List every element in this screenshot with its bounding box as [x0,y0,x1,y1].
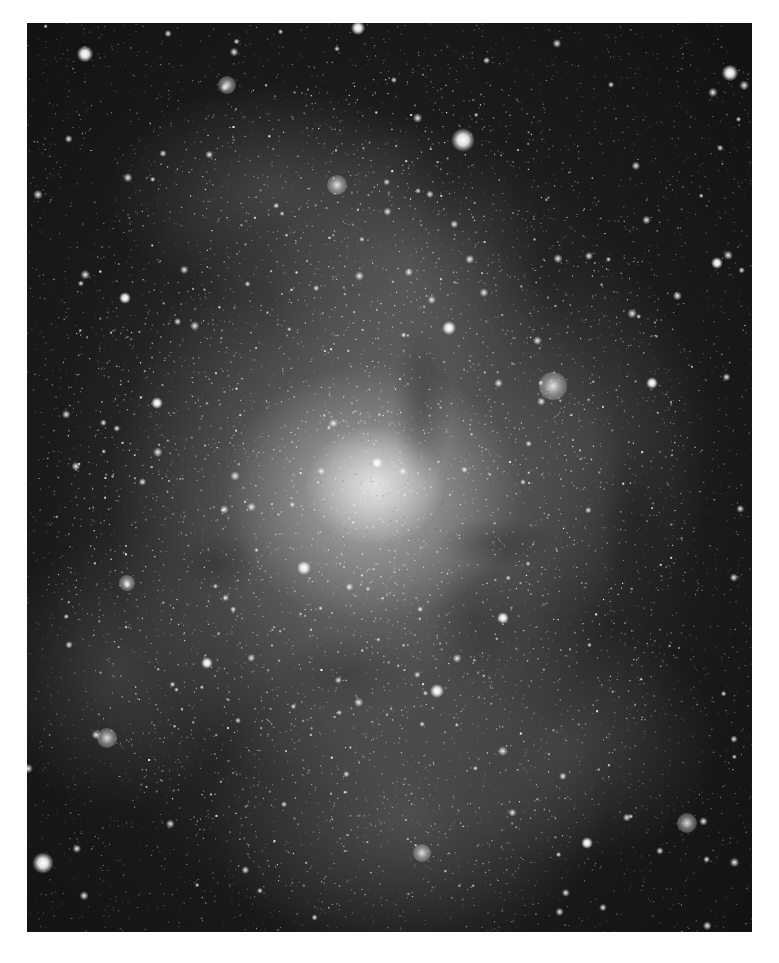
star-field [27,23,752,932]
galaxy-photograph [27,23,752,932]
page [0,0,779,963]
